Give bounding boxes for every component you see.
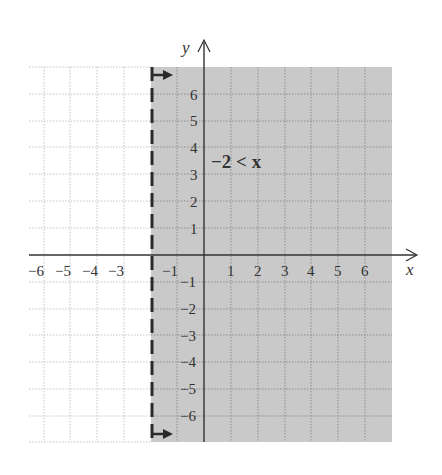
svg-text:−6: −6 <box>180 408 196 424</box>
svg-text:1: 1 <box>190 221 198 237</box>
svg-text:−1: −1 <box>180 274 196 290</box>
svg-text:4: 4 <box>190 140 198 156</box>
svg-text:−5: −5 <box>55 263 71 279</box>
svg-text:−4: −4 <box>82 263 98 279</box>
svg-text:−3: −3 <box>108 263 124 279</box>
svg-text:−1: −1 <box>162 263 178 279</box>
svg-text:3: 3 <box>190 167 198 183</box>
x-axis-label: x <box>405 260 414 279</box>
svg-text:5: 5 <box>190 113 198 129</box>
svg-text:1: 1 <box>227 263 235 279</box>
svg-text:5: 5 <box>334 263 342 279</box>
svg-text:−6: −6 <box>28 263 44 279</box>
inequality-graph: y x −6 −5 −4 −3 −1 1 2 3 4 5 6 6 5 4 3 2… <box>0 0 442 475</box>
svg-text:−3: −3 <box>180 328 196 344</box>
svg-text:2: 2 <box>190 194 198 210</box>
svg-text:2: 2 <box>254 263 262 279</box>
svg-text:6: 6 <box>190 87 198 103</box>
y-axis-label: y <box>180 38 190 57</box>
inequality-label: −2 < x <box>211 151 262 172</box>
svg-text:−2: −2 <box>180 301 196 317</box>
svg-text:−5: −5 <box>180 381 196 397</box>
svg-text:6: 6 <box>361 263 369 279</box>
svg-text:3: 3 <box>281 263 289 279</box>
svg-text:4: 4 <box>307 263 315 279</box>
svg-text:−4: −4 <box>180 354 196 370</box>
